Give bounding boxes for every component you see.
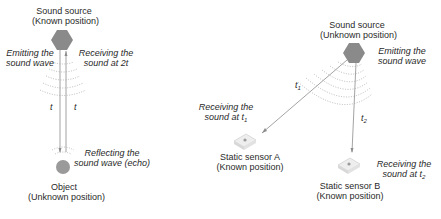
sound-source-hexagon-icon (51, 30, 73, 50)
t1-label: t1 (295, 80, 301, 93)
object-label: Object (Unknown position) (28, 182, 100, 202)
sensor-b-label: Static sensor B (Known position) (314, 181, 386, 201)
receive-b-label: Receiving the sound at t2 (374, 159, 434, 182)
left-emit-label: Emitting the sound wave (4, 48, 56, 68)
receive-a-label: Receiving the sound at t1 (196, 102, 256, 125)
arrow-icon (262, 128, 267, 133)
left-source-label: Sound source (Known position) (32, 6, 96, 26)
reflect-label: Reflecting the sound wave (echo) (72, 148, 152, 168)
sensor-a-label: Static sensor A (Known position) (214, 152, 286, 172)
right-emit-label: Emitting the sound wave (374, 46, 430, 66)
sound-wave-arcs (298, 62, 372, 105)
time-up-label: t (74, 102, 77, 112)
arrow-up-icon (65, 51, 68, 56)
right-source-label: Sound source (Unknown position) (320, 20, 394, 40)
left-receive-label: Receiving the sound at 2t (76, 48, 136, 68)
sound-source-hexagon-icon (343, 43, 365, 63)
echo-arcs (52, 147, 74, 154)
path-to-sensor-a (262, 60, 347, 133)
time-down-label: t (50, 102, 53, 112)
sensor-a-icon (234, 134, 256, 150)
t2-label: t2 (361, 113, 367, 126)
path-to-sensor-b (352, 63, 356, 152)
object-circle-icon (56, 160, 70, 174)
sensor-b-icon (338, 158, 360, 174)
arrow-icon (351, 148, 354, 153)
